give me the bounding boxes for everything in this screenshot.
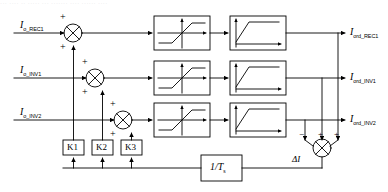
limiter-block-inv1	[154, 61, 210, 95]
limiter-block-rec1	[154, 16, 210, 50]
gain-label-k3[interactable]: K3	[125, 143, 136, 152]
input-label-inv1: Io_INV1	[20, 65, 41, 78]
diagram-vector-layer	[0, 0, 388, 192]
gain-label-k2[interactable]: K2	[96, 143, 107, 152]
feedback-bus	[63, 155, 322, 181]
delta-i-label: ΔI	[292, 155, 300, 164]
lag-block-inv2	[230, 103, 286, 137]
sum-junction-delta-i	[313, 139, 331, 157]
sign-inv1-top: +	[82, 57, 88, 67]
output-label-inv2: Iord_INV2	[350, 114, 376, 127]
gain-label-k1[interactable]: K1	[67, 143, 78, 152]
sign-rec1-bottom: +	[60, 42, 66, 52]
output-label-inv1: Iord_INV1	[350, 72, 376, 85]
lag-block-inv1	[230, 61, 286, 95]
sign-rec1-top: +	[60, 12, 66, 22]
input-label-rec1: Io_REC1	[20, 20, 44, 33]
block-diagram-canvas: ··· ···· ·· ····· ··· ······· ···· ·····…	[0, 0, 388, 192]
sign-inv1-bottom: +	[82, 87, 88, 97]
sum-junction-rec1	[64, 24, 82, 42]
limiter-block-inv2	[154, 103, 210, 137]
sum-junction-inv2	[114, 111, 132, 129]
sign-inv2-bottom: +	[110, 129, 116, 139]
integrator-block-label: 1/Ts	[210, 162, 226, 174]
output-label-rec1: Iord_REC1	[350, 27, 378, 40]
sign-delta-center: +	[318, 130, 323, 139]
input-label-inv2: Io_INV2	[20, 107, 41, 120]
sum-junction-inv1	[86, 69, 104, 87]
sign-delta-left: −	[299, 130, 304, 139]
sign-delta-right: +	[334, 130, 339, 139]
sign-inv2-top: +	[110, 99, 116, 109]
lag-block-rec1	[230, 16, 286, 50]
